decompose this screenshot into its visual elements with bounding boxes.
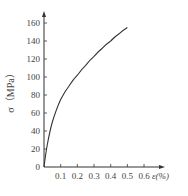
chart: 0204060801001201401600.10.20.30.40.50.6ε… <box>0 0 188 196</box>
x-axis-arrow-icon <box>159 165 165 169</box>
y-tick-label: 160 <box>27 18 41 28</box>
x-axis-label: ε(%) <box>152 171 169 181</box>
y-axis-label: σ（MPa） <box>5 68 16 112</box>
x-tick-label: 0.4 <box>105 171 117 181</box>
y-tick-label: 20 <box>31 144 41 154</box>
y-tick-label: 40 <box>31 126 41 136</box>
y-axis-arrow-icon <box>42 11 46 17</box>
x-tick-label: 0.2 <box>72 171 83 181</box>
y-tick-label: 100 <box>27 72 41 82</box>
y-tick-label: 80 <box>31 90 41 100</box>
y-tick-label: 140 <box>27 36 41 46</box>
x-tick-label: 0.5 <box>122 171 134 181</box>
x-tick-label: 0.3 <box>88 171 100 181</box>
y-tick-label: 60 <box>31 108 41 118</box>
x-tick-label: 0.6 <box>138 171 150 181</box>
y-tick-label: 120 <box>27 54 41 64</box>
x-tick-label: 0.1 <box>55 171 66 181</box>
y-tick-label: 0 <box>36 162 41 172</box>
stress-strain-curve <box>44 28 127 168</box>
